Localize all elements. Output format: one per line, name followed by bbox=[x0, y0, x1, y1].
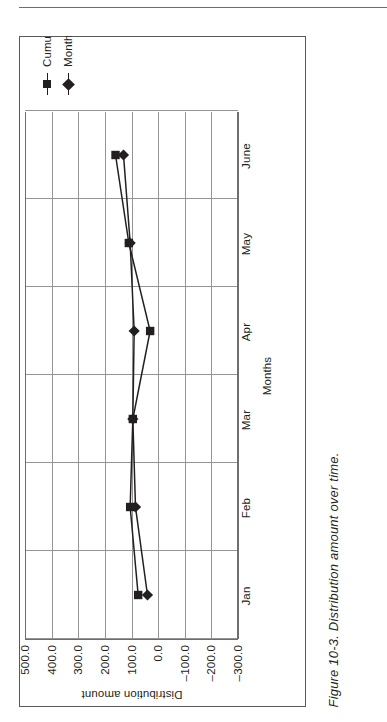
y-axis-title-label: Distribution amount bbox=[81, 689, 182, 701]
gridline-horizontal bbox=[238, 112, 239, 639]
diamond-marker-icon bbox=[62, 73, 74, 95]
figure-caption-stage: Figure 10-3. Distribution amount over ti… bbox=[312, 36, 352, 707]
data-point-diamond bbox=[142, 589, 153, 600]
x-axis-title: Months bbox=[261, 112, 273, 640]
x-tick-label: Feb bbox=[240, 498, 252, 518]
plot-area bbox=[25, 112, 238, 640]
square-marker-icon bbox=[41, 73, 53, 95]
y-tick-label: –200.0 bbox=[205, 645, 217, 681]
data-point-square bbox=[134, 591, 142, 599]
x-tick-label: June bbox=[240, 143, 252, 169]
y-tick-label: –300.0 bbox=[232, 645, 244, 681]
data-point-diamond bbox=[129, 325, 140, 336]
series-lines bbox=[25, 111, 238, 639]
x-tick-label: May bbox=[240, 233, 252, 255]
data-point-square bbox=[146, 327, 154, 335]
line-chart: Distribution amount 500.0400.0300.0200.0… bbox=[19, 36, 306, 707]
x-tick-label: Apr bbox=[240, 323, 252, 342]
page-top-rule bbox=[19, 7, 387, 8]
series-line bbox=[124, 155, 148, 595]
legend-label-monthly: Monthly result bbox=[62, 36, 74, 67]
y-axis-title: Distribution amount bbox=[19, 687, 244, 703]
figure-caption: Figure 10-3. Distribution amount over ti… bbox=[325, 452, 340, 707]
legend-item-monthly: Monthly result bbox=[62, 39, 74, 95]
legend-item-cumulative: Cumulative result bbox=[41, 39, 53, 95]
x-tick-label: Mar bbox=[240, 410, 252, 430]
chart-legend: Cumulative result Monthly result bbox=[41, 39, 74, 95]
x-axis-tick-labels: JanFebMarAprMayJune bbox=[240, 112, 258, 640]
y-axis-tick-labels: 500.0400.0300.0200.0100.00.0–100.0–200.0… bbox=[19, 641, 244, 687]
x-tick-label: Jan bbox=[240, 586, 252, 605]
y-tick-label: 300.0 bbox=[72, 645, 84, 675]
y-tick-label: 500.0 bbox=[19, 645, 31, 675]
y-tick-label: 100.0 bbox=[126, 645, 138, 675]
figure-page: Distribution amount 500.0400.0300.0200.0… bbox=[0, 0, 387, 722]
y-tick-label: 0.0 bbox=[152, 645, 164, 662]
y-tick-label: 400.0 bbox=[46, 645, 58, 675]
y-tick-label: –100.0 bbox=[179, 645, 191, 681]
legend-label-cumulative: Cumulative result bbox=[41, 36, 53, 67]
y-tick-label: 200.0 bbox=[99, 645, 111, 675]
rotated-chart-stage: Distribution amount 500.0400.0300.0200.0… bbox=[19, 36, 306, 707]
